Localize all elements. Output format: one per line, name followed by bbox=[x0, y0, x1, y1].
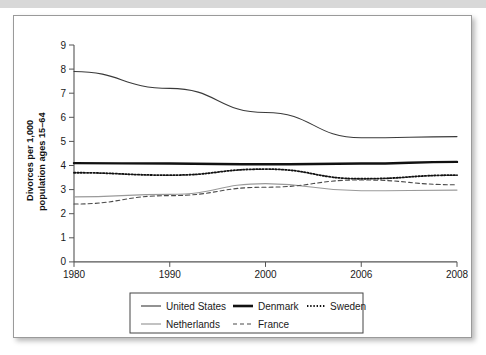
top-decorative-band bbox=[0, 0, 486, 8]
y-tick-label-7: 7 bbox=[60, 88, 66, 99]
y-axis-ticks: 9 8 7 6 5 4 3 2 1 0 bbox=[60, 40, 74, 268]
series-line-denmark bbox=[74, 162, 457, 164]
series-line-sweden bbox=[74, 169, 457, 179]
legend-label-netherlands: Netherlands bbox=[166, 319, 220, 330]
y-tick-label-4: 4 bbox=[60, 160, 66, 171]
figure-card: Divorces per 1,000 population ages 15–64… bbox=[13, 15, 472, 338]
y-tick-label-1: 1 bbox=[60, 232, 66, 243]
x-tick-label-2000: 2000 bbox=[254, 269, 277, 280]
y-tick-label-8: 8 bbox=[60, 64, 66, 75]
y-axis-title-line2: population ages 15–64 bbox=[37, 112, 47, 211]
x-tick-label-2008: 2008 bbox=[446, 269, 469, 280]
y-tick-label-5: 5 bbox=[60, 136, 66, 147]
chart-plot-area: Divorces per 1,000 population ages 15–64… bbox=[14, 16, 473, 339]
y-axis-title: Divorces per 1,000 population ages 15–64 bbox=[25, 112, 47, 211]
series-line-united-states bbox=[74, 72, 457, 138]
x-tick-label-1980: 1980 bbox=[63, 269, 86, 280]
x-axis-ticks: 1980 1990 2000 2006 2008 bbox=[63, 269, 469, 280]
legend-label-france: France bbox=[258, 319, 290, 330]
legend-box bbox=[130, 293, 363, 333]
x-tick-label-1990: 1990 bbox=[159, 269, 182, 280]
legend-label-sweden: Sweden bbox=[330, 301, 366, 312]
line-chart-svg: Divorces per 1,000 population ages 15–64… bbox=[14, 16, 473, 339]
x-tick-marks bbox=[74, 262, 457, 267]
y-axis-title-line1: Divorces per 1,000 bbox=[25, 120, 35, 201]
y-tick-label-2: 2 bbox=[60, 208, 66, 219]
y-tick-label-0: 0 bbox=[60, 256, 66, 267]
y-tick-label-6: 6 bbox=[60, 112, 66, 123]
legend-label-denmark: Denmark bbox=[258, 301, 300, 312]
chart-legend: United States Denmark Sweden Netherlands… bbox=[130, 293, 366, 333]
legend-label-united-states: United States bbox=[166, 301, 226, 312]
x-tick-label-2006: 2006 bbox=[350, 269, 373, 280]
data-series-group bbox=[74, 72, 457, 205]
y-tick-label-9: 9 bbox=[60, 40, 66, 51]
y-tick-marks bbox=[69, 45, 74, 262]
series-line-netherlands bbox=[74, 184, 457, 197]
y-tick-label-3: 3 bbox=[60, 184, 66, 195]
